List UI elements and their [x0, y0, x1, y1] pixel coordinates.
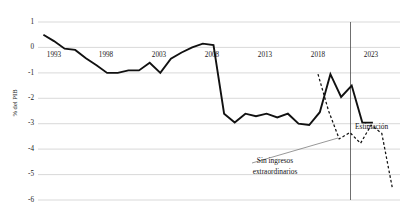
x-tick-label: 1993: [47, 51, 62, 59]
y-tick-label: -2: [28, 94, 34, 102]
x-tick-label: 1998: [99, 51, 114, 59]
y-tick-label: -4: [28, 145, 34, 153]
x-tick-label: 2003: [152, 51, 167, 59]
y-tick-label: 1: [30, 18, 34, 26]
x-tick-label: 2018: [311, 51, 326, 59]
series-line-sin-ingresos: [318, 74, 392, 188]
y-tick-label: -1: [28, 69, 34, 77]
y-tick-label: -3: [28, 119, 34, 127]
annotation-estimacion: Estimación: [355, 122, 389, 131]
series-line-deficit: [43, 35, 373, 125]
y-tick-label: -6: [28, 196, 34, 204]
y-axis-title-group: % del PIB: [11, 89, 18, 117]
x-tick-label: 2023: [364, 51, 379, 59]
chart-canvas: 1 0 -1 -2 -3 -4 -5 -6 % del PIB 1993 199…: [0, 0, 408, 213]
y-axis-tick-labels: 1 0 -1 -2 -3 -4 -5 -6: [28, 18, 34, 204]
annotation-sin-ingresos: Sin ingresos extraordinarios: [252, 138, 338, 176]
x-tick-label: 2013: [258, 51, 273, 59]
estimacion-label: Estimación: [355, 122, 389, 131]
y-axis-title: % del PIB: [11, 89, 18, 117]
y-tick-label: -5: [28, 170, 34, 178]
annotation-label-line1: Sin ingresos: [257, 156, 293, 165]
deficit-line-chart: 1 0 -1 -2 -3 -4 -5 -6 % del PIB 1993 199…: [0, 0, 408, 213]
x-tick-label: 2008: [205, 51, 220, 59]
annotation-label-line2: extraordinarios: [253, 167, 298, 176]
y-tick-label: 0: [30, 43, 34, 51]
gridlines: [38, 22, 400, 200]
x-axis-tick-labels: 1993 1998 2003 2008 2013 2018 2023: [47, 51, 379, 59]
